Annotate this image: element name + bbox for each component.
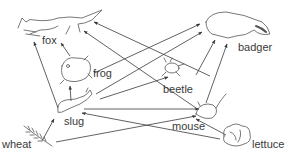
label-slug: slug (64, 116, 84, 127)
label-fox: fox (42, 35, 57, 46)
arrow-frog-to-fox (61, 43, 70, 56)
arrow-mouse-to-badger (206, 44, 227, 103)
arrow-slug-to-beetle (100, 77, 168, 99)
arrow-slug-to-frog (70, 86, 71, 101)
label-frog: frog (93, 68, 112, 79)
label-lettuce: lettuce (252, 139, 284, 150)
arrow-slug-to-fox (34, 42, 58, 108)
label-wheat: wheat (2, 139, 31, 150)
frog-icon (60, 56, 92, 84)
arrow-beetle-to-badger (196, 40, 215, 75)
fox-icon (18, 10, 102, 36)
arrow-wheat-to-slug (42, 119, 54, 141)
label-beetle: beetle (163, 84, 193, 95)
food-web-diagram (0, 0, 288, 154)
label-mouse: mouse (172, 121, 205, 132)
mouse-icon (196, 94, 226, 119)
beetle-icon (162, 58, 184, 76)
badger-icon (206, 12, 270, 38)
label-badger: badger (238, 42, 272, 53)
lettuce-icon (224, 124, 251, 146)
slug-icon (58, 88, 92, 112)
